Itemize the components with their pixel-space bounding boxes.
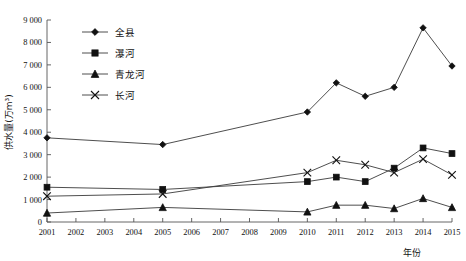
series-square	[44, 145, 455, 192]
x-tick-label: 2010	[299, 228, 316, 237]
marker-diamond	[391, 84, 397, 90]
marker-diamond	[160, 141, 166, 147]
marker-diamond	[92, 29, 99, 36]
y-tick-label: 8 000	[23, 38, 42, 47]
y-axis-tick-labels: 01 0002 0003 0004 0005 0006 0007 0008 00…	[23, 16, 42, 227]
chart-canvas: 01 0002 0003 0004 0005 0006 0007 0008 00…	[0, 0, 466, 261]
y-tick-label: 7 000	[23, 61, 42, 70]
axis-lines	[47, 20, 452, 222]
x-tick-label: 2004	[125, 228, 143, 237]
supply-volume-line-chart: 01 0002 0003 0004 0005 0006 0007 0008 00…	[0, 0, 466, 261]
marker-diamond	[44, 135, 50, 141]
marker-triangle	[419, 195, 426, 202]
y-tick-label: 5 000	[23, 106, 42, 115]
legend-label: 瀑河	[115, 48, 135, 59]
series-cross	[43, 155, 456, 200]
series-diamond	[44, 25, 455, 148]
marker-cross	[419, 155, 427, 163]
legend-item-2: 青龙河	[82, 69, 145, 80]
marker-square	[362, 179, 368, 185]
y-axis-title: 供水量(万m³)	[3, 94, 14, 149]
legend-item-0: 全县	[82, 27, 135, 38]
y-tick-label: 9 000	[23, 16, 42, 25]
y-tick-label: 4 000	[23, 128, 42, 137]
x-tick-label: 2003	[96, 228, 113, 237]
x-tick-label: 2009	[270, 228, 287, 237]
marker-square	[333, 174, 339, 180]
legend-label: 长河	[115, 90, 135, 101]
legend-label: 青龙河	[115, 69, 145, 80]
axis-frame	[47, 20, 452, 222]
x-tick-label: 2013	[386, 228, 403, 237]
x-tick-label: 2006	[183, 228, 200, 237]
marker-cross	[448, 171, 456, 179]
series-line	[47, 28, 452, 145]
x-tick-label: 2015	[444, 228, 461, 237]
y-tick-label: 1 000	[23, 196, 42, 205]
y-tick-label: 6 000	[23, 83, 42, 92]
legend-item-1: 瀑河	[82, 48, 135, 59]
marker-diamond	[362, 93, 368, 99]
x-tick-label: 2005	[154, 228, 171, 237]
x-tick-label: 2014	[415, 228, 433, 237]
legend-item-3: 长河	[82, 90, 135, 101]
y-tick-label: 0	[38, 218, 42, 227]
x-tick-label: 2007	[212, 228, 229, 237]
x-tick-label: 2001	[39, 228, 56, 237]
x-axis-tick-labels: 2001200220032004200520062007200820092010…	[39, 228, 461, 237]
marker-square	[449, 151, 455, 157]
x-axis-title: 年份	[403, 247, 421, 258]
x-tick-label: 2008	[241, 228, 258, 237]
legend-label: 全县	[115, 27, 135, 38]
y-tick-label: 2 000	[23, 173, 42, 182]
marker-square	[92, 50, 98, 56]
marker-square	[44, 184, 50, 190]
x-tick-label: 2011	[328, 228, 344, 237]
series-triangle	[43, 195, 455, 216]
marker-square	[304, 179, 310, 185]
marker-square	[420, 145, 426, 151]
x-tick-label: 2012	[357, 228, 374, 237]
x-tick-label: 2002	[68, 228, 85, 237]
marker-triangle	[448, 204, 455, 211]
series-line	[47, 159, 452, 196]
chart-legend: 全县瀑河青龙河长河	[82, 27, 145, 101]
y-tick-label: 3 000	[23, 151, 42, 160]
